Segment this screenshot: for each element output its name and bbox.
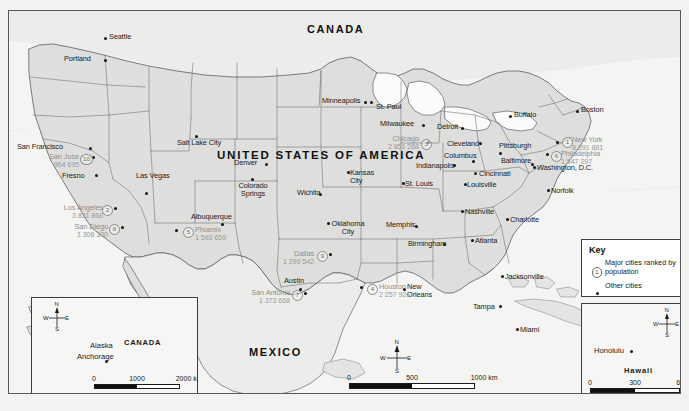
- city-label-portland: Portland: [64, 55, 91, 63]
- city-label-fresno: Fresno: [62, 172, 84, 180]
- scale-tick-0-main: 0: [347, 374, 351, 381]
- scale-bar-hawaii-graphic: [590, 388, 680, 393]
- inset-map-hawaii: Honolulu Hawaii N E S W 0: [581, 303, 681, 394]
- inset-hawaii-region-label: Hawaii: [624, 366, 653, 375]
- city-label-denver: Denver: [234, 159, 257, 167]
- city-label-phoenix: Phoenix 1 593 659: [195, 226, 226, 243]
- scale-tick-1000-main: 1000 km: [471, 374, 498, 381]
- scale-seg-empty-hawaii: [635, 389, 679, 392]
- inset-alaska-canada-label: CANADA: [124, 338, 161, 347]
- city-label-st-louis: St. Louis: [405, 180, 433, 188]
- compass-rose-main: N E S W: [381, 341, 413, 375]
- city-label-chicago: Chicago 2 851 268: [361, 135, 419, 152]
- inset-map-alaska: CANADA Alaska Anchorage N E S W: [31, 297, 198, 394]
- country-label-mexico: MEXICO: [249, 346, 302, 358]
- city-label-salt-lake-city: Salt Lake City: [176, 139, 222, 147]
- city-label-las-vegas: Las Vegas: [136, 172, 170, 180]
- inset-hawaii-city-label-honolulu: Honolulu: [594, 346, 624, 355]
- scale-bar-main: 0 500 1000 km: [349, 383, 475, 391]
- city-rank-los-angeles: 2: [102, 205, 113, 216]
- city-label-oklahoma-city: Oklahoma City: [327, 220, 369, 237]
- city-population-phoenix: 1 593 659: [195, 234, 226, 242]
- city-rank-chicago: 3: [421, 139, 432, 150]
- city-rank-phoenix: 5: [183, 227, 194, 238]
- key-row-major-cities: 1 Major cities ranked by population: [589, 259, 681, 278]
- city-label-cincinnati: Cincinnati: [479, 170, 510, 178]
- scale-tick-300-hawaii: 300: [629, 379, 641, 386]
- scale-tick-500-main: 500: [406, 374, 418, 381]
- city-label-cleveland: Cleveland: [447, 140, 479, 148]
- key-title: Key: [589, 245, 681, 255]
- city-label-seattle: Seattle: [109, 33, 131, 41]
- city-label-san-diego: San Diego 1 306 300: [50, 223, 108, 240]
- city-label-boston: Boston: [581, 106, 603, 114]
- city-population-los-angeles: 3 831 868: [38, 212, 103, 220]
- inset-alaska-region-label: Alaska: [90, 341, 113, 350]
- city-rank-san-diego: 8: [109, 224, 120, 235]
- city-label-buffalo: Buffalo: [514, 111, 536, 119]
- city-rank-san-jose: 10: [80, 154, 93, 165]
- key-row-other-cities: Other cities: [589, 282, 681, 301]
- scale-bar-alaska: 0 1000 2000 km: [94, 384, 180, 392]
- city-label-nashville: Nashville: [465, 208, 494, 216]
- city-label-colorado-springs: Colorado Springs: [228, 182, 278, 199]
- key-symbol-rank-circle: 1: [589, 259, 605, 278]
- compass-west-label-main: W: [380, 355, 386, 361]
- city-population-san-diego: 1 306 300: [50, 231, 108, 239]
- scale-seg-filled-hawaii: [591, 389, 635, 392]
- city-population-dallas: 1 299 542: [252, 258, 314, 266]
- city-label-norfolk: Norfolk: [551, 187, 574, 195]
- city-label-san-francisco: San Francisco: [17, 143, 63, 151]
- city-label-milwaukee: Milwaukee: [380, 120, 414, 128]
- scale-tick-1000-alaska: 1000: [129, 375, 145, 382]
- scale-tick-2000-alaska: 2000 km: [176, 375, 198, 382]
- compass-south-label-alaska: S: [55, 326, 59, 332]
- compass-north-label-hawaii: N: [665, 307, 669, 313]
- city-label-jacksonville: Jacksonville: [505, 273, 544, 281]
- city-population-chicago: 2 851 268: [361, 143, 419, 151]
- city-label-philadelphia: Philadelphia 1 547 297: [561, 150, 600, 167]
- city-label-kansas-city: Kansas City: [350, 169, 384, 186]
- city-label-tampa: Tampa: [473, 303, 495, 311]
- compass-south-label-hawaii: S: [665, 332, 669, 338]
- compass-west-label-hawaii: W: [653, 321, 659, 327]
- city-label-st-paul: St. Paul: [376, 103, 401, 111]
- city-label-minneapolis: Minneapolis: [322, 97, 360, 105]
- city-rank-san-antonio: 7: [292, 290, 303, 301]
- inset-hawaii-city-dot-honolulu: [630, 350, 633, 353]
- city-label-baltimore: Baltimore: [501, 157, 531, 165]
- map-key-box: Key 1 Major cities ranked by population …: [581, 239, 681, 297]
- city-label-miami: Miami: [520, 326, 539, 334]
- scale-bar-alaska-graphic: [94, 384, 180, 389]
- rank-circle-icon: 1: [592, 267, 603, 278]
- country-label-canada: CANADA: [307, 23, 364, 35]
- scale-seg-empty: [412, 384, 474, 388]
- city-label-austin: Austin: [284, 277, 304, 285]
- key-label-major-cities: Major cities ranked by population: [605, 259, 681, 276]
- city-label-san-antonio: San Antonio 1 373 668: [230, 289, 290, 306]
- scale-seg-filled: [350, 384, 412, 388]
- compass-east-label-alaska: E: [65, 315, 69, 321]
- compass-east-label-hawaii: E: [675, 321, 679, 327]
- city-label-atlanta: Atlanta: [475, 237, 497, 245]
- city-population-philadelphia: 1 547 297: [561, 158, 600, 166]
- compass-north-label-alaska: N: [55, 301, 59, 307]
- scale-seg-filled-alaska: [95, 385, 137, 388]
- city-label-los-angeles: Los Angeles 3 831 868: [38, 204, 103, 221]
- city-label-charlotte: Charlotte: [510, 216, 539, 224]
- city-population-san-jose: 964 695: [31, 161, 79, 169]
- compass-east-label-main: E: [407, 355, 411, 361]
- scale-bar-hawaii: 0 300 600 km: [590, 388, 680, 394]
- scale-tick-0-alaska: 0: [92, 375, 96, 382]
- compass-rose-alaska: N E S W: [44, 304, 70, 332]
- city-label-pittsburgh: Pittsburgh: [499, 142, 531, 150]
- map-figure: CANADA UNITED STATES OF AMERICA MEXICO S…: [0, 0, 689, 411]
- key-symbol-city-dot: [589, 282, 605, 301]
- city-label-new-orleans: New Orleans: [407, 283, 441, 299]
- city-label-wichita: Wichita: [297, 189, 321, 197]
- city-label-dallas: Dallas 1 299 542: [252, 250, 314, 267]
- compass-rose-hawaii: N E S W: [654, 310, 680, 338]
- city-label-san-jose: San Jose 964 695: [31, 153, 79, 170]
- city-label-houston: Houston 2 257 926: [379, 283, 410, 300]
- city-dot-icon: [596, 292, 599, 295]
